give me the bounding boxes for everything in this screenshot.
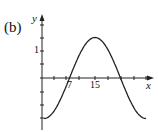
- y-axis-arrow-icon: [40, 14, 45, 21]
- x-axis-arrow-icon: [147, 76, 154, 81]
- chart-plot: [0, 0, 158, 132]
- x-axis: [40, 76, 154, 81]
- y-axis: [40, 14, 45, 130]
